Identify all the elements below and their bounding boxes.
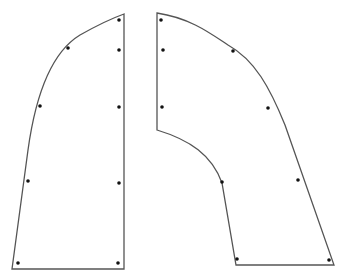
hole-marker bbox=[117, 105, 121, 109]
hole-marker bbox=[116, 261, 120, 265]
hole-marker bbox=[161, 48, 165, 52]
hole-marker bbox=[117, 181, 121, 185]
hole-marker bbox=[117, 48, 121, 52]
left-panel bbox=[12, 14, 124, 269]
right-panel bbox=[157, 13, 334, 265]
hole-marker bbox=[26, 179, 30, 183]
hole-marker bbox=[159, 18, 163, 22]
pattern-pieces-group bbox=[12, 13, 334, 269]
hole-marker bbox=[266, 106, 270, 110]
right-panel-outline bbox=[157, 13, 334, 265]
hole-marker bbox=[327, 258, 331, 262]
hole-marker bbox=[16, 261, 20, 265]
hole-marker bbox=[160, 105, 164, 109]
hole-marker bbox=[296, 178, 300, 182]
pattern-diagram bbox=[0, 0, 349, 278]
hole-marker bbox=[66, 46, 70, 50]
hole-marker bbox=[231, 49, 235, 53]
left-panel-outline bbox=[12, 14, 124, 269]
hole-marker bbox=[220, 180, 224, 184]
hole-marker bbox=[235, 257, 239, 261]
hole-marker bbox=[117, 18, 121, 22]
hole-marker bbox=[38, 104, 42, 108]
